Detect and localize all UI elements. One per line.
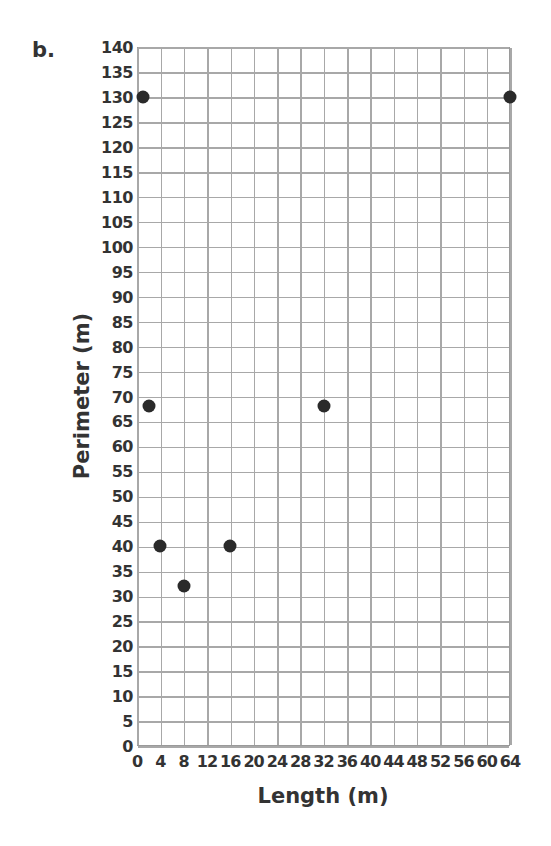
data-point	[317, 400, 330, 413]
grid-line-horizontal	[138, 222, 509, 223]
y-tick-label: 5	[122, 712, 133, 731]
grid-line-horizontal	[138, 197, 509, 198]
x-tick-label: 8	[179, 752, 189, 771]
y-tick-label: 70	[112, 387, 133, 406]
x-tick-label: 28	[290, 752, 310, 771]
y-tick-label: 75	[112, 362, 133, 381]
grid-line-horizontal	[138, 272, 509, 273]
data-point	[177, 580, 190, 593]
y-tick-label: 10	[112, 687, 133, 706]
x-tick-label: 64	[500, 752, 520, 771]
y-axis-label: Perimeter (m)	[70, 313, 94, 479]
y-tick-label: 15	[112, 662, 133, 681]
grid-line-horizontal	[138, 247, 509, 248]
y-tick-label: 120	[101, 137, 133, 156]
x-tick-label: 44	[383, 752, 403, 771]
grid-line-horizontal	[138, 746, 509, 747]
grid-line-horizontal	[138, 696, 509, 697]
y-tick-label: 135	[101, 62, 133, 81]
grid-line-horizontal	[138, 172, 509, 173]
y-tick-label: 95	[112, 262, 133, 281]
grid-line-horizontal	[138, 646, 509, 647]
grid-line-horizontal	[138, 322, 509, 323]
x-tick-label: 16	[220, 752, 240, 771]
grid-line-horizontal	[138, 671, 509, 672]
y-tick-label: 30	[112, 587, 133, 606]
y-tick-label: 110	[101, 187, 133, 206]
plot-grid	[137, 47, 510, 746]
y-tick-label: 140	[101, 38, 133, 57]
x-tick-label: 12	[197, 752, 217, 771]
x-tick-label: 4	[155, 752, 165, 771]
data-point	[504, 90, 517, 103]
data-point	[154, 540, 167, 553]
y-tick-label: 40	[112, 537, 133, 556]
y-tick-label: 50	[112, 487, 133, 506]
y-tick-label: 45	[112, 512, 133, 531]
x-tick-label: 36	[337, 752, 357, 771]
y-tick-label: 125	[101, 112, 133, 131]
grid-line-horizontal	[138, 572, 509, 573]
grid-line-horizontal	[138, 621, 509, 622]
grid-line-horizontal	[138, 721, 509, 722]
x-tick-label: 20	[243, 752, 263, 771]
y-tick-label: 60	[112, 437, 133, 456]
y-tick-label: 130	[101, 87, 133, 106]
data-point	[136, 90, 149, 103]
x-tick-label: 52	[430, 752, 450, 771]
grid-line-horizontal	[138, 72, 509, 73]
grid-line-horizontal	[138, 422, 509, 423]
grid-line-horizontal	[138, 347, 509, 348]
grid-line-horizontal	[138, 522, 509, 523]
y-tick-label: 25	[112, 612, 133, 631]
y-tick-label: 0	[122, 737, 133, 756]
x-tick-label: 32	[313, 752, 333, 771]
x-tick-label: 48	[407, 752, 427, 771]
data-point	[224, 540, 237, 553]
grid-line-horizontal	[138, 547, 509, 548]
grid-line-vertical	[510, 48, 511, 745]
grid-line-horizontal	[138, 122, 509, 123]
y-tick-label: 85	[112, 312, 133, 331]
y-tick-label: 65	[112, 412, 133, 431]
y-tick-label: 90	[112, 287, 133, 306]
x-tick-label: 0	[132, 752, 142, 771]
y-tick-label: 35	[112, 562, 133, 581]
grid-line-horizontal	[138, 47, 509, 48]
x-axis-label: Length (m)	[258, 784, 389, 808]
data-point	[142, 400, 155, 413]
grid-line-horizontal	[138, 497, 509, 498]
y-tick-label: 80	[112, 337, 133, 356]
grid-line-horizontal	[138, 372, 509, 373]
x-tick-label: 40	[360, 752, 380, 771]
x-tick-label: 56	[453, 752, 473, 771]
grid-line-horizontal	[138, 597, 509, 598]
grid-line-horizontal	[138, 147, 509, 148]
y-tick-label: 20	[112, 637, 133, 656]
grid-line-horizontal	[138, 297, 509, 298]
grid-line-horizontal	[138, 447, 509, 448]
grid-line-horizontal	[138, 397, 509, 398]
y-tick-label: 55	[112, 462, 133, 481]
x-tick-label: 24	[267, 752, 287, 771]
part-label: b.	[32, 38, 55, 62]
y-tick-label: 105	[101, 212, 133, 231]
y-tick-label: 100	[101, 237, 133, 256]
grid-line-horizontal	[138, 472, 509, 473]
grid-line-horizontal	[138, 97, 509, 98]
y-tick-label: 115	[101, 162, 133, 181]
x-tick-label: 60	[477, 752, 497, 771]
